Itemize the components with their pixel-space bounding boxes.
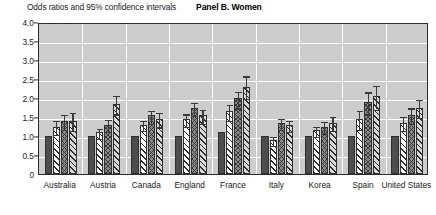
error-bar-stem [159, 113, 160, 127]
error-bar-cap-upper [278, 119, 285, 120]
error-bar-cap-upper [227, 105, 234, 106]
error-bar-cap-lower [373, 110, 380, 111]
error-bar-stem [72, 113, 73, 131]
error-bar-cap-upper [365, 92, 372, 93]
error-bar-stem [281, 119, 282, 130]
error-bar-cap-lower [357, 130, 364, 131]
error-bar-stem [99, 129, 100, 139]
error-bar-cap-lower [330, 131, 337, 132]
error-bar-cap-lower [200, 124, 207, 125]
error-bar-stem [332, 117, 333, 131]
error-bar-cap-upper [235, 92, 242, 93]
error-bar-cap-lower [365, 114, 372, 115]
error-bar-cap-upper [140, 121, 147, 122]
error-bar-stem [316, 127, 317, 138]
error-bar-stem [143, 121, 144, 131]
error-bar-stem [289, 121, 290, 132]
bar [45, 136, 52, 174]
bar [348, 136, 355, 174]
y-tick-label: 1.0 [2, 132, 34, 142]
error-bar-stem [116, 96, 117, 114]
panel-title: Panel B. Women [196, 2, 262, 12]
bar-group [126, 24, 169, 174]
error-bar-stem [368, 92, 369, 114]
bar-group [342, 24, 385, 174]
chart-header: Odds ratios and 95% confidence intervals… [0, 2, 436, 17]
error-bar-cap-upper [61, 115, 68, 116]
bar [175, 136, 182, 174]
error-bar-cap-lower [286, 132, 293, 133]
y-tick-label: 4.0 [2, 18, 34, 28]
plot-area [38, 23, 428, 175]
error-bar-cap-lower [321, 134, 328, 135]
error-bar-stem [108, 120, 109, 133]
y-tick-label: 3.0 [2, 56, 34, 66]
error-bar-cap-upper [270, 137, 277, 138]
error-bar-cap-lower [113, 114, 120, 115]
error-bar-cap-lower [183, 127, 190, 128]
y-axis-labels: 00.51.01.52.02.53.03.54.0 [0, 23, 34, 175]
error-bar-cap-lower [105, 132, 112, 133]
error-bar-cap-lower [156, 127, 163, 128]
error-bar-cap-upper [286, 121, 293, 122]
y-tick-label: 2.5 [2, 75, 34, 85]
error-bar-stem [403, 117, 404, 131]
bar [391, 136, 398, 174]
y-tick-label: 0.5 [2, 151, 34, 161]
bar [305, 136, 312, 174]
y-tick-label: 1.5 [2, 113, 34, 123]
error-bar-cap-lower [148, 124, 155, 125]
bar-group [39, 24, 82, 174]
x-tick-label: Australia [44, 180, 76, 190]
plot-area-wrapper: 00.51.01.52.02.53.03.54.0 AustraliaAustr… [0, 18, 436, 196]
error-bar-cap-upper [313, 127, 320, 128]
error-bar-cap-lower [191, 116, 198, 117]
error-bar-stem [246, 76, 247, 99]
error-bar-cap-lower [416, 118, 423, 119]
error-bar-cap-lower [70, 131, 77, 132]
error-bar-stem [238, 92, 239, 109]
bar-group [212, 24, 255, 174]
error-bar-cap-upper [330, 117, 337, 118]
error-bar-cap-lower [408, 124, 415, 125]
error-bar-cap-lower [400, 131, 407, 132]
bar [218, 132, 225, 174]
x-tick-label: United States [381, 180, 431, 190]
error-bar-stem [202, 110, 203, 124]
error-bar-cap-lower [313, 137, 320, 138]
bar-group [169, 24, 212, 174]
x-tick-label: Canada [132, 180, 161, 190]
x-tick-label: England [174, 180, 204, 190]
y-tick-label: 2.0 [2, 94, 34, 104]
chart-page: Odds ratios and 95% confidence intervals… [0, 0, 436, 215]
x-tick-label: France [220, 180, 246, 190]
error-bar-cap-upper [243, 76, 250, 77]
error-bar-stem [359, 111, 360, 130]
error-bar-cap-upper [321, 122, 328, 123]
error-bar-cap-upper [408, 108, 415, 109]
bar [88, 136, 95, 174]
error-bar-cap-lower [235, 108, 242, 109]
y-tick-label: 3.5 [2, 37, 34, 47]
error-bar-stem [419, 100, 420, 118]
x-tick-label: Korea [309, 180, 331, 190]
error-bar-cap-lower [227, 121, 234, 122]
error-bar-cap-upper [400, 117, 407, 118]
bar-group [386, 24, 428, 174]
error-bar-cap-upper [156, 113, 163, 114]
error-bar-stem [273, 137, 274, 145]
x-tick-label: Spain [352, 180, 373, 190]
x-tick-label: Italy [269, 180, 284, 190]
error-bar-stem [56, 121, 57, 135]
bar-group [256, 24, 299, 174]
bar [191, 108, 198, 175]
error-bar-cap-upper [416, 100, 423, 101]
bar [131, 136, 138, 174]
error-bar-stem [376, 86, 377, 110]
error-bar-cap-lower [61, 130, 68, 131]
error-bar-cap-upper [53, 121, 60, 122]
error-bar-cap-upper [357, 111, 364, 112]
error-bar-cap-lower [278, 130, 285, 131]
error-bar-cap-upper [373, 86, 380, 87]
y-axis-caption: Odds ratios and 95% confidence intervals [27, 2, 176, 12]
